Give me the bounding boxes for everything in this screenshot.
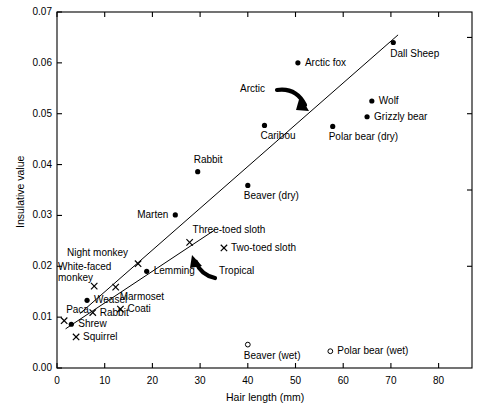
data-point-label: Two-toed sloth: [231, 242, 296, 253]
x-tick-label: 30: [185, 375, 215, 386]
x-tick-label: 50: [281, 375, 311, 386]
y-tick-label: 0.02: [18, 260, 52, 271]
data-point-label: Polar bear (wet): [337, 345, 408, 356]
scatter-plot-figure: 0.000.010.020.030.040.050.060.07 0102030…: [0, 0, 484, 412]
data-point-label: Paca: [66, 304, 89, 315]
arctic-annotation-arrow: [277, 90, 309, 111]
data-point-label: Caribou: [261, 130, 296, 141]
y-tick-label: 0.05: [18, 108, 52, 119]
data-point-label: Polar bear (dry): [329, 131, 398, 142]
annotation-label-arctic: Arctic: [240, 83, 265, 94]
y-tick-label: 0.00: [18, 362, 52, 373]
data-point-label: Rabbit: [194, 154, 223, 165]
x-tick-label: 0: [42, 375, 72, 386]
y-tick-label: 0.06: [18, 57, 52, 68]
data-point-label: Three-toed sloth: [193, 224, 266, 235]
x-tick-label: 80: [424, 375, 454, 386]
data-point-label: Arctic fox: [305, 57, 346, 68]
data-point-label: Night monkey: [18, 247, 128, 258]
y-tick-label: 0.01: [18, 311, 52, 322]
trend-lines: [66, 35, 398, 329]
x-tick-label: 60: [328, 375, 358, 386]
data-point-label: Beaver (dry): [244, 190, 299, 201]
annotation-label-tropical: Tropical: [219, 265, 254, 276]
data-point-label: Dall Sheep: [390, 48, 439, 59]
x-axis-title: Hair length (mm): [226, 391, 304, 403]
data-point-label: Squirrel: [83, 331, 117, 342]
data-point-label: Shrew: [78, 318, 106, 329]
data-point-label: Beaver (wet): [244, 350, 301, 361]
data-point-label: Marten: [58, 209, 168, 220]
y-tick-label: 0.07: [18, 6, 52, 17]
plot-canvas: [0, 0, 484, 412]
x-tick-label: 70: [376, 375, 406, 386]
y-axis-title: Insulative value: [14, 156, 26, 228]
data-point-label: Coati: [127, 303, 150, 314]
data-point-label: Grizzly bear: [374, 111, 427, 122]
data-point-label: Weasel: [94, 294, 127, 305]
data-point-label: Wolf: [379, 95, 399, 106]
data-point-label: Lemming: [154, 265, 195, 276]
x-tick-label: 20: [137, 375, 167, 386]
data-point-label: White-faced monkey: [58, 261, 130, 283]
data-point-label: Rabbit: [100, 307, 129, 318]
x-tick-label: 10: [90, 375, 120, 386]
x-tick-label: 40: [233, 375, 263, 386]
